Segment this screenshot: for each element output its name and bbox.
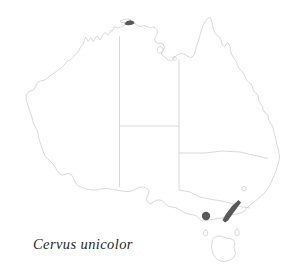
groote-eylandt (157, 47, 163, 54)
australia-coastline (26, 18, 280, 222)
mainland-outline (26, 18, 280, 222)
occurrence-western-victoria (202, 212, 210, 220)
distribution-map-figure: Cervus unicolor (0, 0, 289, 273)
border-qld-nsw (179, 151, 268, 159)
border-act (242, 187, 246, 191)
king-island (203, 230, 207, 236)
occurrence-markers (125, 20, 242, 222)
border-nsw-vic (179, 190, 250, 208)
species-name-label: Cervus unicolor (33, 236, 133, 253)
occurrence-cobourg-peninsula (125, 20, 135, 25)
tasmania-group (203, 229, 239, 262)
australia-state-borders (120, 37, 269, 209)
northern-coast-detail (121, 19, 177, 60)
tasmania (212, 236, 236, 262)
flinders-island (235, 229, 239, 236)
australia-map (0, 0, 289, 273)
